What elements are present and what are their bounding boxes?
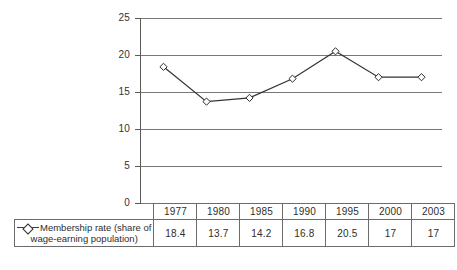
data-table-wrapper: 1977 1980 1985 1990 1995 2000 2003 (14, 203, 455, 247)
legend-label-line1: Membership rate (share of (40, 222, 151, 233)
data-point-1985 (246, 94, 253, 101)
data-point-2000 (375, 74, 382, 81)
table-value-1995: 20.5 (326, 220, 369, 247)
table-value-1977: 18.4 (154, 220, 197, 247)
table-header-1985: 1985 (240, 204, 283, 220)
legend-entry: Membership rate (share of wage-earning p… (15, 220, 154, 247)
table-header-1990: 1990 (283, 204, 326, 220)
data-point-1995 (332, 48, 339, 55)
table-header-1977: 1977 (154, 204, 197, 220)
table-value-2003: 17 (412, 220, 455, 247)
table-header-corner (15, 204, 154, 220)
plot-area: 25 20 15 10 5 0 (0, 0, 457, 210)
data-table: 1977 1980 1985 1990 1995 2000 2003 (14, 203, 455, 247)
data-series-membership-rate (0, 0, 457, 210)
table-value-1990: 16.8 (283, 220, 326, 247)
legend-label-line2: wage-earning population) (31, 233, 138, 244)
data-point-1990 (289, 75, 296, 82)
table-header-2003: 2003 (412, 204, 455, 220)
data-point-2003 (418, 74, 425, 81)
table-value-1985: 14.2 (240, 220, 283, 247)
table-row: Membership rate (share of wage-earning p… (15, 220, 455, 247)
diamond-marker-icon (17, 223, 39, 232)
chart-figure: 25 20 15 10 5 0 1977 1980 1985 1990 1995… (0, 0, 457, 270)
table-value-1980: 13.7 (197, 220, 240, 247)
table-header-1980: 1980 (197, 204, 240, 220)
table-header-2000: 2000 (369, 204, 412, 220)
table-header-1995: 1995 (326, 204, 369, 220)
table-value-2000: 17 (369, 220, 412, 247)
table-header-row: 1977 1980 1985 1990 1995 2000 2003 (15, 204, 455, 220)
